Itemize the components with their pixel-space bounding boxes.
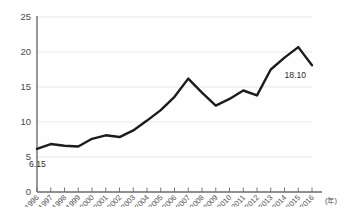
y-axis-tick-label: 10: [20, 116, 31, 127]
chart-plot-area: 2520151050199619971998199920002001200220…: [0, 0, 340, 207]
y-axis-tick-label: 15: [20, 81, 31, 92]
y-axis-tick-label: 0: [26, 186, 31, 197]
y-axis-tick-label: 20: [20, 46, 31, 57]
y-axis-tick-label: 25: [20, 11, 31, 22]
data-series-line: [37, 47, 312, 149]
x-axis-unit-label: (年): [325, 196, 337, 205]
data-label-6-15: 6.15: [29, 159, 46, 169]
data-label-18-10: 18.10: [284, 70, 306, 80]
line-chart: 2520151050199619971998199920002001200220…: [0, 0, 340, 207]
